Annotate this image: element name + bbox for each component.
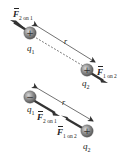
charge-label-q2: q2 — [83, 142, 91, 153]
force-label-2on1: F2 on 1 — [13, 10, 33, 21]
force-label-1on2: F1 on 2 — [57, 128, 77, 139]
force-label-1on2: F1 on 2 — [97, 68, 117, 79]
charge-q1: + — [24, 27, 36, 39]
force-arrow-1on2 — [61, 116, 69, 121]
separation-label: r — [64, 38, 67, 46]
charge-q2: + — [81, 64, 93, 76]
charge-q2: + — [81, 125, 93, 137]
plus-sign: + — [26, 28, 34, 38]
charge-label-q2: q2 — [82, 79, 90, 90]
charge-label-q1: q1 — [27, 44, 35, 55]
charge-q1: − — [24, 91, 36, 103]
force-label-2on1: F2 on 1 — [37, 113, 57, 124]
plus-sign: + — [83, 126, 91, 136]
panel-repulsion: + + — [10, 20, 108, 83]
plus-sign: + — [83, 65, 91, 75]
separation-label: r — [62, 99, 65, 107]
minus-sign: − — [26, 92, 34, 102]
charge-label-q1: q1 — [27, 105, 35, 116]
dashed-connector — [33, 36, 85, 67]
